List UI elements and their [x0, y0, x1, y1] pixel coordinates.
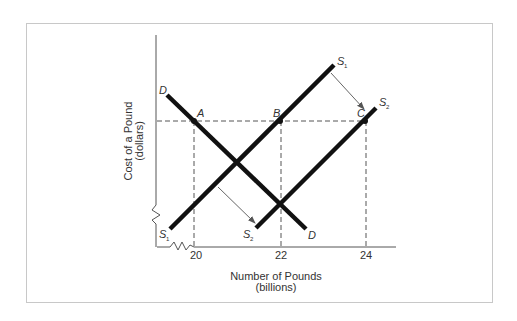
point-a-label: A: [196, 107, 204, 119]
x-tick-22: 22: [275, 249, 287, 261]
demand-label-top: D: [159, 84, 167, 96]
svg-text:2: 2: [250, 236, 254, 242]
svg-text:1: 1: [344, 63, 348, 69]
svg-text:2: 2: [386, 104, 390, 110]
supply-curve-s1: [170, 65, 334, 229]
x-tick-20: 20: [190, 249, 202, 261]
x-axis-unit: (billions): [256, 281, 297, 293]
demand-label-bottom: D: [308, 229, 316, 241]
x-tick-24: 24: [360, 249, 372, 261]
y-axis-title-group: Cost of a Pound (dollars): [122, 102, 145, 181]
y-axis-unit: (dollars): [133, 121, 145, 161]
s1-label-top: S 1: [337, 55, 348, 69]
shift-arrow-bottom: [218, 187, 255, 223]
shift-arrow-top: [331, 73, 364, 109]
point-b-label: B: [273, 107, 280, 119]
y-axis: [152, 35, 160, 247]
supply-demand-diagram: A B C D D S 1 S 2 S 1 S 2 20 22 24 Numbe…: [0, 0, 517, 321]
s2-label-bottom: S 2: [243, 228, 254, 242]
s2-label-top: S 2: [379, 96, 390, 110]
point-c-label: C: [357, 107, 365, 119]
s1-label-bottom: S 1: [159, 228, 170, 242]
svg-text:1: 1: [166, 236, 170, 242]
